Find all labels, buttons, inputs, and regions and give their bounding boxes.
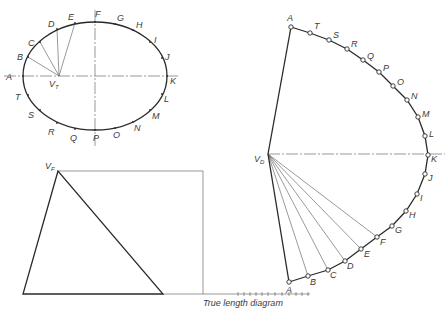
development-point (423, 134, 427, 138)
point-label: A (285, 285, 292, 295)
point-label: L (164, 94, 169, 104)
element-line (57, 29, 59, 76)
cone-development-drawing: ABCDEFGHIJKLMNOPQRST VT VF True length d… (0, 0, 445, 311)
point-label: B (17, 52, 23, 62)
development-rays (268, 154, 377, 276)
seam-line-bottom (268, 154, 289, 282)
division-point (161, 93, 163, 95)
top-view: ABCDEFGHIJKLMNOPQRST VT (4, 9, 178, 146)
point-label: H (409, 210, 416, 220)
division-point (114, 127, 116, 129)
development-point (287, 280, 291, 284)
development-ray (268, 154, 308, 276)
point-label: I (154, 35, 157, 45)
point-label: T (15, 92, 22, 102)
element-lines (28, 23, 75, 76)
point-label: G (117, 13, 124, 23)
element-line (40, 42, 59, 76)
point-label: F (380, 237, 386, 247)
division-point (39, 109, 41, 111)
division-point (166, 75, 168, 77)
development-ray (268, 154, 345, 261)
point-label: A (5, 72, 12, 82)
division-point (56, 28, 58, 30)
development-arc (289, 27, 428, 282)
point-label: S (28, 110, 34, 120)
point-label: R (351, 39, 358, 49)
division-point (56, 122, 58, 124)
development-point (390, 224, 394, 228)
point-label: S (333, 30, 339, 40)
development-point (391, 84, 395, 88)
point-label: F (95, 9, 101, 19)
development-point (405, 98, 409, 102)
point-label: H (136, 20, 143, 30)
point-label: M (422, 109, 430, 119)
division-point (22, 75, 24, 77)
point-label: J (427, 173, 433, 183)
point-label: B (310, 277, 316, 287)
front-view: VF True length diagram (23, 161, 310, 308)
division-point (94, 21, 96, 23)
development-ray (268, 154, 377, 237)
development-point (426, 153, 430, 157)
development-point (345, 47, 349, 51)
development-point (404, 209, 408, 213)
apex-label-vf: VF (45, 161, 55, 172)
point-label: N (411, 91, 418, 101)
point-label: D (48, 19, 55, 29)
division-point (149, 41, 151, 43)
division-point (74, 22, 76, 24)
development-point (416, 115, 420, 119)
division-point (94, 129, 96, 131)
development-point (361, 58, 365, 62)
point-label: Q (70, 133, 77, 143)
point-label: M (152, 111, 160, 121)
development-pattern: ATSRQPONMLKJIHGFEDCBA VD (254, 13, 445, 295)
division-point (161, 57, 163, 59)
point-label: R (48, 127, 55, 137)
point-label: O (113, 130, 120, 140)
division-point (149, 109, 151, 111)
point-label: P (93, 133, 99, 143)
true-length-caption: True length diagram (203, 298, 283, 308)
development-point (308, 31, 312, 35)
point-label: C (28, 38, 35, 48)
division-point (27, 94, 29, 96)
point-label: A (286, 13, 293, 23)
point-label: J (164, 52, 170, 62)
division-point (39, 41, 41, 43)
development-point (289, 25, 293, 29)
point-label: I (420, 193, 423, 203)
point-label: E (364, 249, 371, 259)
development-point (327, 38, 331, 42)
point-label: C (330, 270, 337, 280)
development-ray (268, 154, 361, 249)
development-point (415, 192, 419, 196)
point-label: K (170, 76, 177, 86)
division-point (132, 29, 134, 31)
point-label: G (395, 225, 402, 235)
element-line (59, 23, 75, 76)
development-point (377, 70, 381, 74)
division-point (114, 23, 116, 25)
point-label: Q (367, 51, 374, 61)
true-length-frame (58, 171, 203, 294)
point-label: O (397, 77, 404, 87)
division-point (74, 128, 76, 130)
cone-front-triangle (23, 171, 163, 294)
point-label: D (347, 261, 354, 271)
division-point (27, 56, 29, 58)
point-label: N (134, 123, 141, 133)
development-point (375, 235, 379, 239)
apex-label-vt: VT (49, 79, 60, 90)
development-point (423, 172, 427, 176)
point-label: P (383, 63, 389, 73)
point-label: K (431, 154, 438, 164)
development-point (359, 247, 363, 251)
apex-label-vd: VD (254, 154, 265, 165)
point-label: E (68, 12, 75, 22)
seam-line-top (268, 27, 291, 154)
point-label: L (429, 129, 434, 139)
element-line (28, 57, 59, 76)
